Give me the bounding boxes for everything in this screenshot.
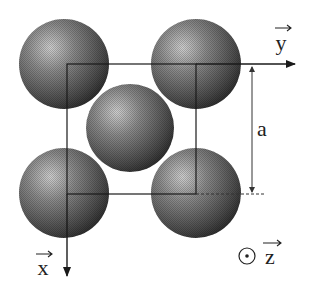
label-y: y xyxy=(276,30,287,55)
label-x: x xyxy=(38,255,49,280)
label-z: z xyxy=(265,244,275,269)
atom-center xyxy=(86,84,174,172)
lattice-diagram: y a x z xyxy=(0,0,313,296)
atom-bottom-left xyxy=(19,148,109,238)
z-out-of-plane-icon xyxy=(239,248,255,264)
label-a: a xyxy=(257,116,267,141)
